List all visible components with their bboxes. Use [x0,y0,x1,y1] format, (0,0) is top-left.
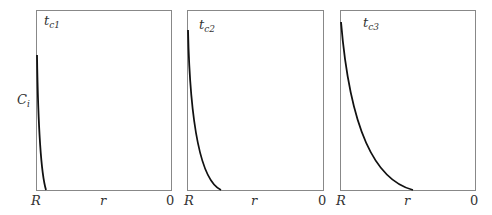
panel-1-title: tc1 [44,14,60,27]
panel-1-frame [37,11,172,191]
diagram-canvas [0,0,492,215]
panel-2-label-r-max: R [184,194,194,207]
y-axis-label: Ci [17,93,30,106]
panel-2-label-r: r [251,194,257,207]
panel-3-label-r: r [404,194,410,207]
panel-2-concentration-curve [188,30,221,190]
panel-3-label-zero: 0 [470,194,478,207]
panel-1-concentration-curve [37,55,46,190]
panel-2-label-zero: 0 [318,194,326,207]
panel-3-title: tc3 [363,16,379,29]
panel-3-label-r-max: R [336,194,346,207]
panel-1-label-r-max: R [31,194,41,207]
panel-3-frame [341,11,476,191]
panel-1-label-r: r [100,194,106,207]
panel-2-frame [188,11,324,191]
panel-1-label-zero: 0 [166,194,174,207]
panel-2-title: tc2 [199,18,215,31]
panel-3-concentration-curve [341,22,413,190]
